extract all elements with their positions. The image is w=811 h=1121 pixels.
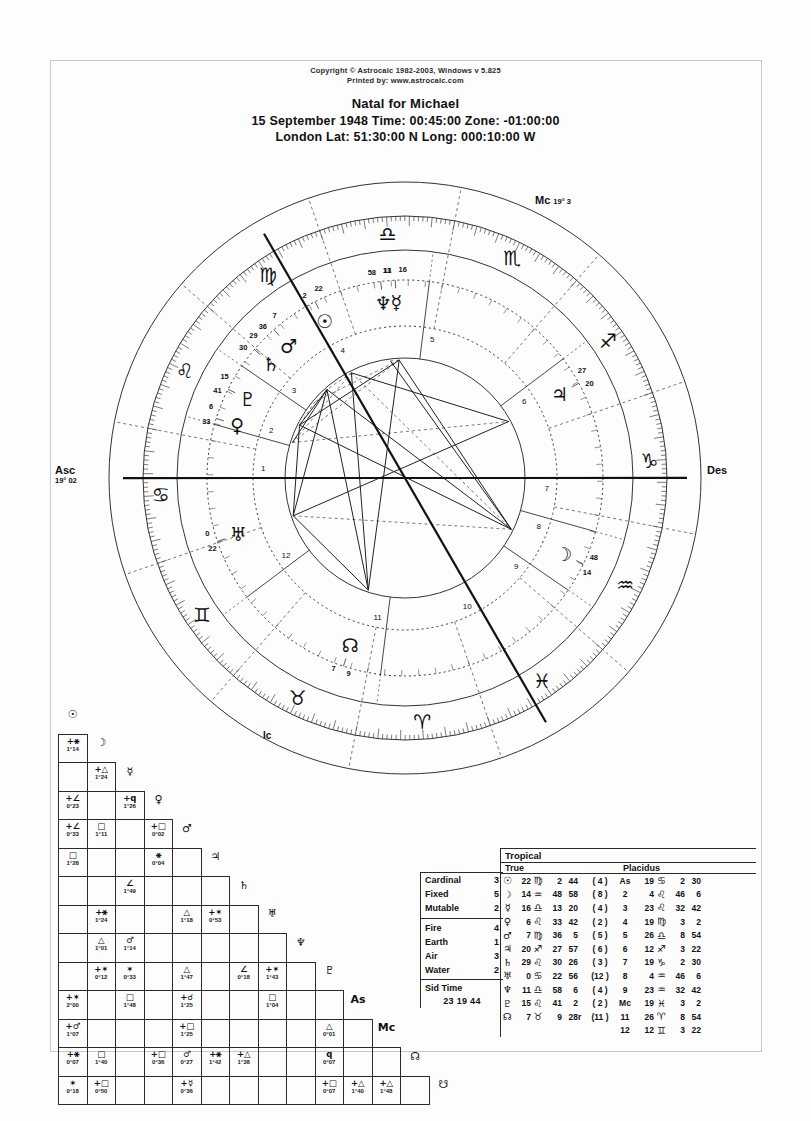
aspect-grid-cell: [59, 877, 88, 906]
aspect-grid-cell: [144, 877, 173, 906]
aspect-grid-cell: □1°40: [87, 1048, 116, 1077]
house-cusp-2: [214, 424, 289, 445]
cusp-label: 11: [614, 1012, 636, 1022]
aspect-grid-row: +△1°24☿: [59, 763, 458, 792]
aspect-orb: 1°25: [173, 1002, 201, 1009]
aspect-grid-diagonal-1: ☽: [87, 734, 116, 763]
aspect-grid-cell: [230, 1019, 259, 1048]
aspect-grid-diagonal-7: ♅: [258, 905, 287, 934]
aspect-grid-cell: +□0°36: [144, 1048, 173, 1077]
aspect-orb: 1°49: [116, 888, 144, 895]
wheel-planet-minute-0: 2: [302, 291, 306, 300]
cusp-sign: ♓: [654, 998, 669, 1009]
aspect-orb: 1°48: [116, 1002, 144, 1009]
cusp-label: As: [614, 876, 636, 886]
copyright-line-2: Printed by: www.astrocalc.com: [0, 76, 811, 86]
aspect-symbol: +∠: [59, 820, 87, 831]
aspect-symbol: +♂: [59, 1020, 87, 1031]
aspect-grid-cell: [116, 848, 145, 877]
positions-row: ☉22♍244( 4 )As19♋230: [501, 874, 756, 888]
aspect-grid-cell: [258, 1048, 287, 1077]
wheel-planet-1: ☽: [555, 543, 572, 565]
wheel-planet-minute-10: 9: [346, 669, 350, 678]
aspect-symbol: +✶: [88, 963, 116, 974]
cusp-degree: 12: [636, 1025, 654, 1035]
page-title: Natal for Michael: [0, 96, 811, 111]
planet-glyph: ♂: [501, 930, 514, 941]
wheel-planet-minute-7: 22: [208, 544, 216, 553]
planet-sign: ♎: [531, 984, 545, 995]
true-node-label: True: [501, 863, 619, 873]
aspect-grid-cell: +⚹1°24: [87, 905, 116, 934]
aspect-orb: 1°47: [173, 974, 201, 981]
planet-second: 6: [562, 985, 578, 995]
planet-minute: 30: [545, 957, 562, 967]
modality-row-mutable-label: Mutable: [425, 901, 459, 915]
table-subheader: True Placidus: [501, 863, 756, 874]
aspect-grid-row: +✶0°12✶0°33△1°47∠0°18+✶1°43♇: [59, 962, 458, 991]
aspect-grid-cell: □1°04: [258, 991, 287, 1020]
aspect-grid-cell: □1°11: [87, 820, 116, 849]
aspect-grid-cell: [116, 1076, 145, 1105]
aspect-symbol: □: [59, 849, 87, 860]
aspect-symbol: ⚹: [145, 849, 173, 860]
planet-sign: ♎: [531, 902, 545, 913]
aspect-grid-cell: [173, 934, 202, 963]
element-row-air: Air3: [421, 949, 503, 963]
aspect-orb: 1°18: [173, 917, 201, 924]
cusp-sign: ♒: [654, 970, 669, 981]
wheel-planet-degree-0: 22: [314, 284, 322, 293]
aspect-line: [292, 422, 508, 443]
cusp-second: 6: [685, 971, 701, 981]
cusp-second: 54: [685, 930, 701, 940]
planet-degree: 14: [514, 889, 531, 899]
element-row-fire: Fire4: [421, 921, 503, 935]
cusp-minute: 3: [669, 1025, 685, 1035]
aspect-grid-cell: ∠0°18: [230, 962, 259, 991]
house-cusp-12: [247, 550, 309, 597]
planet-second: 26: [562, 957, 578, 967]
planet-degree: 6: [514, 917, 531, 927]
aspect-grid-cell: [116, 905, 145, 934]
sid-time-value: 23 19 44: [425, 995, 499, 1008]
aspect-symbol: +△: [373, 1077, 401, 1088]
aspect-grid-cell: [173, 877, 202, 906]
aspect-grid-cell: +∠0°23: [59, 791, 88, 820]
aspect-grid-diagonal-0: ☉: [59, 706, 88, 734]
positions-row: 1212♊322: [501, 1024, 756, 1038]
aspect-symbol: +☿: [173, 1077, 201, 1088]
aspect-symbol: +✶: [59, 991, 87, 1002]
wheel-planet-minute-3: 33: [202, 417, 210, 426]
planet-glyph: ♆: [501, 984, 514, 995]
planet-minute: 22: [545, 971, 562, 981]
aspect-orb: 0°36: [145, 1059, 173, 1066]
aspect-grid-cell: +⚹1°14: [59, 734, 88, 763]
aspect-grid-cell: ⚹0°04: [144, 848, 173, 877]
aspect-symbol: +□: [88, 1077, 116, 1088]
aspect-orb: 1°25: [173, 1031, 201, 1038]
aspect-grid-planet-symbol: ♄: [230, 877, 258, 892]
table-divider-2: [421, 979, 503, 980]
aspect-grid-row: +⚹0°07□1°40+□0°36♂0°27+⚹1°42+△1°38q0°07☊: [59, 1048, 458, 1077]
asc-text: Asc: [55, 464, 75, 476]
positions-rows: ☉22♍244( 4 )As19♋230☽14♒4858( 8 )24♌466☿…: [501, 874, 756, 1037]
aspect-grid-planet-symbol: ☉: [59, 706, 88, 721]
element-modality-table: Cardinal3Fixed5Mutable2 Fire4Earth1Air3W…: [420, 872, 503, 1008]
cusp-sign: ♊: [654, 1025, 669, 1036]
cusp-minute: 32: [669, 903, 685, 913]
aspect-symbol: +✶: [202, 906, 230, 917]
planet-degree: 0: [514, 971, 531, 981]
aspect-orb: 0°18: [59, 1088, 87, 1095]
planet-sign: ♌: [531, 916, 545, 927]
aspect-grid-cell: ♂1°14: [116, 934, 145, 963]
aspect-grid-cell: +∠0°33: [59, 820, 88, 849]
sign-glyph-7: ♏: [503, 246, 521, 270]
aspect-grid-diagonal-10: As: [344, 991, 373, 1020]
aspect-symbol: △: [173, 906, 201, 917]
aspect-grid-cell: △1°18: [173, 905, 202, 934]
aspect-symbol: ∠: [230, 963, 258, 974]
wheel-planet-6: ♄: [263, 353, 280, 375]
positions-row: ♂7♍365( 5 )526♎854: [501, 928, 756, 942]
sign-glyph-8: ♐: [599, 329, 617, 353]
wheel-planet-degree-1: 14: [583, 568, 592, 577]
